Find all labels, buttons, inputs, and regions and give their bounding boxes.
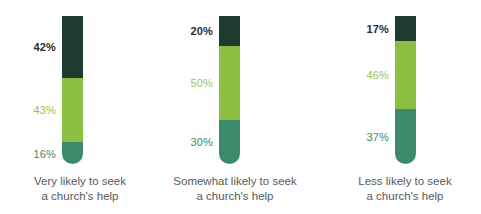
value-label-middle: 43% [33, 104, 56, 116]
bar-group-somewhat-likely: 20% 50% 30% Somewhat likely to seek a ch… [155, 0, 315, 214]
bar-segment-top [219, 16, 240, 46]
bar-segment-bottom [219, 120, 240, 164]
value-label-top: 20% [190, 25, 213, 37]
bar-caption-line-1: Less likely to seek [325, 174, 481, 189]
bar-caption-line-2: a church's help [325, 189, 481, 204]
bar-caption-line-2: a church's help [0, 189, 160, 204]
value-label-middle: 50% [190, 77, 213, 89]
bar-segment-middle [62, 78, 83, 142]
bar-segment-bottom [62, 142, 83, 164]
bar-caption-line-1: Somewhat likely to seek [155, 174, 315, 189]
bar-segment-middle [219, 46, 240, 120]
value-label-bottom: 30% [190, 136, 213, 148]
stacked-bar-chart: 42% 43% 16% Very likely to seek a church… [0, 0, 481, 214]
value-label-bottom: 37% [366, 131, 389, 143]
percentage-labels: 20% 50% 30% [157, 16, 213, 164]
bar-caption: Somewhat likely to seek a church's help [155, 174, 315, 204]
value-label-top: 17% [366, 23, 389, 35]
value-label-top: 42% [33, 41, 56, 53]
bar-caption-line-1: Very likely to seek [0, 174, 160, 189]
bar-group-very-likely: 42% 43% 16% Very likely to seek a church… [0, 0, 160, 214]
value-label-middle: 46% [366, 69, 389, 81]
percentage-labels: 42% 43% 16% [0, 16, 56, 164]
bar-caption: Very likely to seek a church's help [0, 174, 160, 204]
percentage-labels: 17% 46% 37% [333, 16, 389, 164]
bar-caption: Less likely to seek a church's help [325, 174, 481, 204]
stacked-bar [62, 16, 83, 164]
bar-segment-top [62, 16, 83, 78]
bar-segment-middle [395, 41, 416, 109]
bar-segment-bottom [395, 109, 416, 164]
bar-group-less-likely: 17% 46% 37% Less likely to seek a church… [325, 0, 481, 214]
value-label-bottom: 16% [33, 148, 56, 160]
bar-caption-line-2: a church's help [155, 189, 315, 204]
stacked-bar [395, 16, 416, 164]
bar-segment-top [395, 16, 416, 41]
stacked-bar [219, 16, 240, 164]
